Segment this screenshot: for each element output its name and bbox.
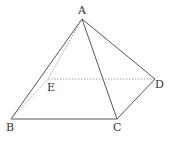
vertex-labels: ABCDE xyxy=(6,4,164,134)
pyramid-diagram: ABCDE xyxy=(0,0,170,146)
edge-cd xyxy=(117,79,155,119)
edge-ae xyxy=(48,19,82,79)
vertex-label-c: C xyxy=(113,121,121,134)
vertex-label-a: A xyxy=(77,4,87,17)
edge-be xyxy=(11,79,48,119)
vertex-label-b: B xyxy=(6,121,14,134)
vertex-label-e: E xyxy=(47,81,55,94)
edge-ab xyxy=(11,19,82,119)
vertex-label-d: D xyxy=(155,78,164,91)
pyramid-edges xyxy=(11,19,155,119)
